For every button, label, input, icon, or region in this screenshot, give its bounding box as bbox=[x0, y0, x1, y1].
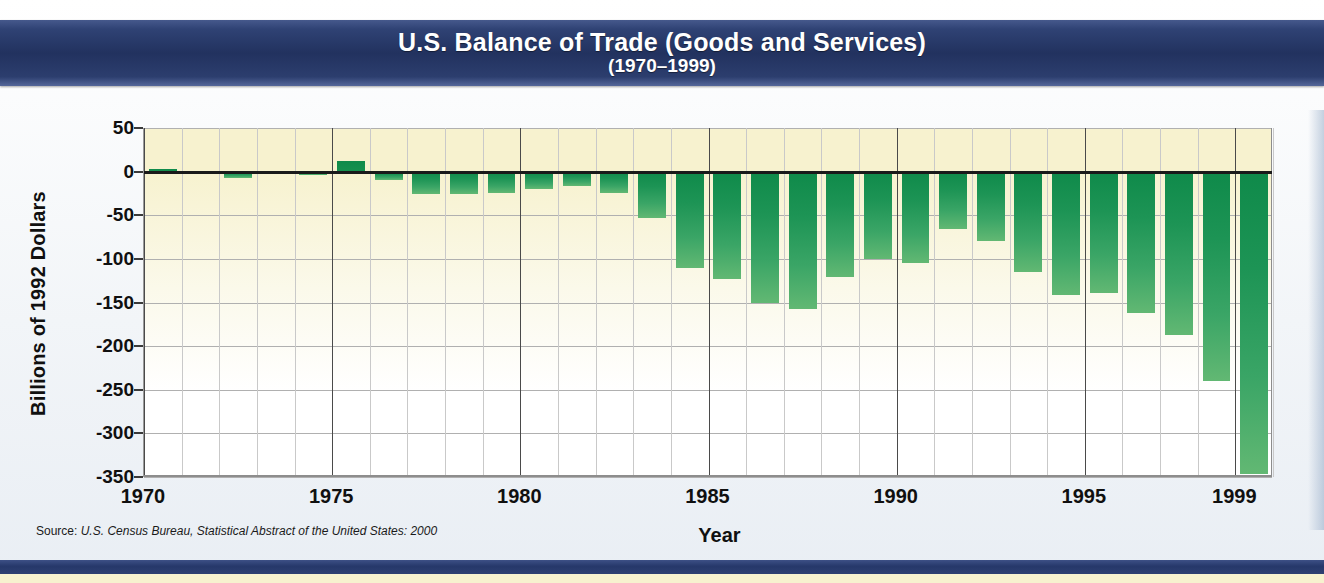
bar bbox=[412, 172, 440, 195]
plot-bottom-border bbox=[144, 475, 1272, 477]
zero-line bbox=[144, 171, 1272, 174]
chart-figure: U.S. Balance of Trade (Goods and Service… bbox=[0, 0, 1324, 583]
gridline-v bbox=[1010, 128, 1011, 477]
y-tick-label: -250 bbox=[96, 379, 134, 401]
x-axis-ticks: 1970197519801985199019951999 bbox=[143, 481, 1272, 515]
x-tick-label: 1999 bbox=[1212, 485, 1257, 508]
gridline-v bbox=[1160, 128, 1161, 477]
bar bbox=[1090, 172, 1118, 293]
plot-area bbox=[143, 128, 1272, 477]
y-tick-mark bbox=[134, 345, 143, 347]
gridline-v bbox=[370, 128, 371, 477]
bar bbox=[1240, 172, 1268, 475]
bar bbox=[563, 172, 591, 187]
gridline-v bbox=[1198, 128, 1199, 477]
gridline-v-major bbox=[520, 128, 521, 477]
bar bbox=[1203, 172, 1231, 381]
gridline-v bbox=[859, 128, 860, 477]
source-label: Source: bbox=[36, 524, 81, 538]
gridline-v bbox=[257, 128, 258, 477]
bar bbox=[600, 172, 628, 194]
gridline-v-major bbox=[1235, 128, 1236, 477]
x-tick-label: 1995 bbox=[1062, 485, 1107, 508]
bar bbox=[1165, 172, 1193, 335]
gridline-v bbox=[1273, 128, 1274, 477]
gridline-v bbox=[596, 128, 597, 477]
gridline-v bbox=[558, 128, 559, 477]
bar bbox=[1127, 172, 1155, 313]
bottom-rule bbox=[0, 560, 1324, 574]
gridline-v-major bbox=[1085, 128, 1086, 477]
gridline-v bbox=[445, 128, 446, 477]
source-text: U.S. Census Bureau, Statistical Abstract… bbox=[81, 524, 437, 538]
y-tick-label: -200 bbox=[96, 335, 134, 357]
y-tick-mark bbox=[134, 302, 143, 304]
bar bbox=[1014, 172, 1042, 272]
gridline-v bbox=[746, 128, 747, 477]
x-tick-label: 1980 bbox=[497, 485, 542, 508]
gridline-v bbox=[219, 128, 220, 477]
gridline-v bbox=[821, 128, 822, 477]
bar bbox=[525, 172, 553, 189]
bar bbox=[864, 172, 892, 259]
bar bbox=[1052, 172, 1080, 295]
gridline-v bbox=[483, 128, 484, 477]
y-tick-mark bbox=[134, 432, 143, 434]
y-tick-mark bbox=[134, 127, 143, 129]
y-tick-mark bbox=[134, 476, 143, 478]
y-tick-label: 50 bbox=[113, 117, 134, 139]
gridline-v-major bbox=[332, 128, 333, 477]
y-tick-label: -50 bbox=[107, 204, 134, 226]
y-tick-mark bbox=[134, 258, 143, 260]
page-edge-shadow bbox=[1308, 110, 1324, 530]
title-banner: U.S. Balance of Trade (Goods and Service… bbox=[0, 20, 1324, 86]
gridline-v-major bbox=[709, 128, 710, 477]
y-tick-label: -150 bbox=[96, 292, 134, 314]
bar bbox=[977, 172, 1005, 242]
bar bbox=[450, 172, 478, 195]
gridline-v bbox=[934, 128, 935, 477]
y-tick-mark bbox=[134, 171, 143, 173]
bar bbox=[939, 172, 967, 230]
gridline-v bbox=[182, 128, 183, 477]
y-tick-mark bbox=[134, 214, 143, 216]
chart-subtitle: (1970–1999) bbox=[608, 55, 716, 77]
gridline-v bbox=[1122, 128, 1123, 477]
gridline-v bbox=[295, 128, 296, 477]
y-tick-label: 0 bbox=[123, 161, 134, 183]
gridline-v bbox=[784, 128, 785, 477]
plot-right-border bbox=[1271, 128, 1272, 477]
bar bbox=[751, 172, 779, 303]
bar bbox=[902, 172, 930, 264]
x-tick-label: 1970 bbox=[121, 485, 166, 508]
bottom-strip bbox=[0, 574, 1324, 583]
gridline-v bbox=[972, 128, 973, 477]
x-tick-label: 1975 bbox=[309, 485, 354, 508]
gridline-h bbox=[144, 477, 1272, 478]
gridline-v bbox=[407, 128, 408, 477]
x-tick-label: 1990 bbox=[873, 485, 918, 508]
gridline-v bbox=[1047, 128, 1048, 477]
gridline-v-major bbox=[897, 128, 898, 477]
y-tick-mark bbox=[134, 389, 143, 391]
bar bbox=[676, 172, 704, 268]
bar bbox=[826, 172, 854, 278]
y-tick-label: -300 bbox=[96, 422, 134, 444]
gridline-v bbox=[671, 128, 672, 477]
bar bbox=[638, 172, 666, 218]
chart-title: U.S. Balance of Trade (Goods and Service… bbox=[398, 29, 926, 55]
gridline-v-major bbox=[144, 128, 145, 477]
bar bbox=[789, 172, 817, 310]
source-note: Source: U.S. Census Bureau, Statistical … bbox=[36, 524, 437, 538]
y-tick-label: -100 bbox=[96, 248, 134, 270]
bar bbox=[713, 172, 741, 279]
bar bbox=[488, 172, 516, 194]
gridline-v bbox=[633, 128, 634, 477]
x-tick-label: 1985 bbox=[685, 485, 730, 508]
